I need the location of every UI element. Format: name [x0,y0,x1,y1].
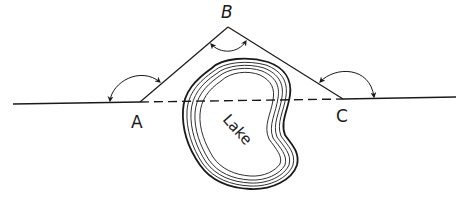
point-label-c: C [336,106,348,126]
point-label-b: B [221,2,233,22]
leg-ab [140,27,228,102]
point-label-a: A [131,112,143,132]
angle-arc-c [320,71,374,97]
baseline-right [343,97,456,99]
dashed-line-ac [140,99,343,102]
angle-arc-a [110,75,160,101]
lake-label: Lake [219,111,256,149]
baseline-left [13,102,140,104]
survey-diagram: A B C Lake [0,0,467,203]
leg-bc [228,27,343,99]
angle-arc-b [211,41,246,51]
